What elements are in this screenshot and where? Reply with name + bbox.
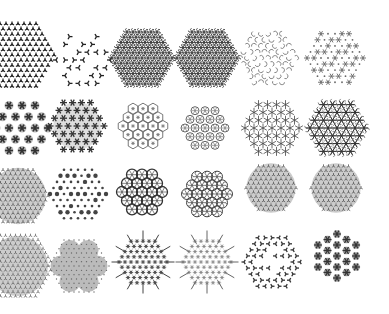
pattern-tile-r2-c1 — [48, 168, 108, 219]
pattern-tile-r1-c2 — [118, 103, 168, 149]
pattern-tile-r3-c4 — [242, 236, 302, 289]
pattern-tile-r0-c2 — [108, 28, 175, 87]
pattern-tile-r1-c3 — [181, 107, 229, 150]
pattern-tile-r0-c1 — [53, 34, 112, 86]
pattern-tile-r3-c5 — [314, 230, 360, 282]
pattern-tile-r1-c0 — [0, 101, 53, 155]
pattern-tile-r0-c0 — [0, 21, 56, 87]
pattern-tile-r3-c1 — [48, 239, 109, 292]
pattern-tile-r2-c4 — [244, 163, 297, 212]
pattern-tile-r2-c2 — [117, 169, 168, 215]
pattern-grid — [0, 0, 389, 314]
pattern-tile-r3-c0 — [0, 234, 55, 298]
pattern-tile-r0-c5 — [304, 31, 366, 85]
pattern-tile-r2-c3 — [182, 171, 233, 217]
pattern-tile-r1-c4 — [241, 100, 303, 156]
pattern-tile-r2-c5 — [309, 163, 362, 212]
pattern-tile-r0-c3 — [173, 28, 240, 87]
pattern-tile-r1-c1 — [47, 100, 108, 153]
pattern-tile-r0-c4 — [238, 30, 300, 85]
pattern-tile-r1-c5 — [305, 99, 370, 157]
pattern-tile-r3-c3 — [176, 231, 239, 294]
pattern-tile-r2-c0 — [0, 168, 50, 224]
pattern-tile-r3-c2 — [112, 231, 175, 294]
pattern-canvas — [0, 0, 389, 314]
